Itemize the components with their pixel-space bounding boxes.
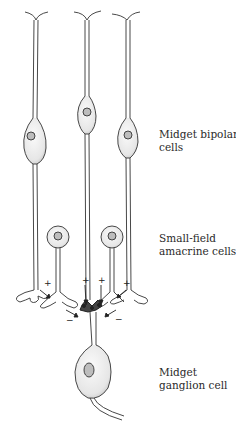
label-amacrine-cells: Small-field amacrine cells [159,232,236,258]
label-line: amacrine cells [159,245,236,258]
label-ganglion-cell: Midget ganglion cell [159,366,227,392]
plus-sign: + [98,275,106,285]
label-line: cells [159,141,236,154]
plus-sign: + [82,275,90,285]
label-line: ganglion cell [159,379,227,392]
bipolar-cell-middle [74,11,101,300]
label-line: Small-field [159,232,236,245]
synapse-cluster [80,300,102,312]
label-line: Midget [159,366,227,379]
amacrine-cell-left [40,226,77,308]
minus-sign: − [115,314,123,324]
nucleus [27,132,35,140]
bipolar-cell-right [110,12,147,304]
nucleus [84,363,94,377]
nucleus [124,131,132,139]
nucleus [83,108,91,116]
retina-diagram: + + + + − − [0,0,236,427]
bipolar-cell-left [16,12,48,303]
label-line: Midget bipolar [159,128,236,141]
plus-sign: + [44,278,52,288]
synapse-arrows [40,285,126,317]
nucleus [54,232,62,240]
label-bipolar-cells: Midget bipolar cells [159,128,236,154]
plus-sign: + [123,278,131,288]
ganglion-cell [75,312,124,420]
minus-sign: − [66,315,74,325]
nucleus [108,232,116,240]
